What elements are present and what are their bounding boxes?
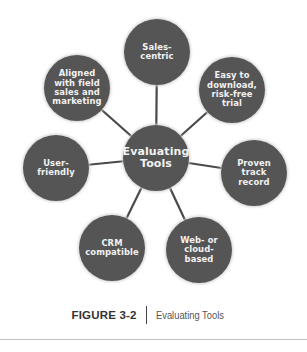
node-text-line: friendly bbox=[34, 168, 77, 177]
node-text-line: compatible bbox=[82, 248, 142, 257]
node-proven: Proven track record bbox=[221, 140, 287, 206]
node-easy-to-download: Easy to download, risk-free trial bbox=[199, 57, 265, 123]
node-text-line: trial bbox=[204, 99, 260, 108]
node-text-line: marketing bbox=[49, 97, 104, 106]
node-text-line: centric bbox=[137, 52, 176, 61]
node-text-line: track record bbox=[224, 168, 284, 187]
node-crm-compatible: CRM compatible bbox=[79, 215, 145, 281]
node-web-or-cloud: Web- or cloud-based bbox=[166, 217, 232, 283]
figure-caption: FIGURE 3-2 Evaluating Tools bbox=[0, 306, 307, 324]
hub-evaluating-tools: Evaluating Tools bbox=[123, 125, 189, 191]
node-user-friendly: User- friendly bbox=[23, 135, 89, 201]
node-aligned: Aligned with field sales and marketing bbox=[44, 55, 110, 121]
horizontal-rule bbox=[0, 339, 307, 340]
figure-number: FIGURE 3-2 bbox=[71, 309, 136, 321]
node-text-line: cloud-based bbox=[169, 245, 229, 264]
node-sales-centric: Sales- centric bbox=[124, 19, 190, 85]
caption-divider bbox=[146, 306, 147, 324]
figure-title: Evaluating Tools bbox=[156, 309, 224, 321]
hub-text-line: Tools bbox=[120, 158, 193, 170]
